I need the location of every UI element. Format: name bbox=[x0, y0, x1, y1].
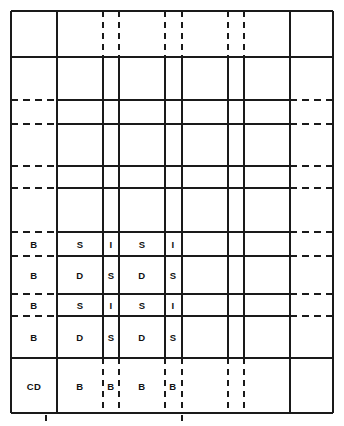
tick-marks bbox=[46, 415, 182, 421]
dashed-vertical-lines bbox=[103, 11, 244, 413]
solid-horizontal-lines bbox=[11, 11, 333, 413]
grid-svg bbox=[0, 0, 344, 426]
figure-canvas: BSISIBDSDSBSISIBDSDSCDBBBB bbox=[0, 0, 344, 426]
dashed-horizontal-lines bbox=[11, 100, 333, 316]
solid-vertical-lines bbox=[11, 11, 333, 413]
